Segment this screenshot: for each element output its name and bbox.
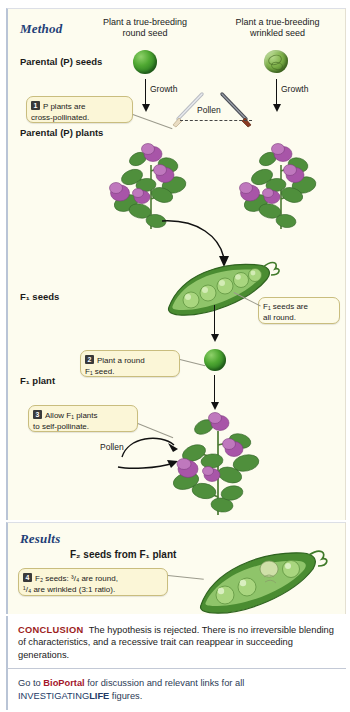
f1-all-round-text: F₁ seeds are all round. — [263, 302, 308, 322]
stage-label-f1-plant: F₁ plant — [20, 375, 55, 386]
growth-arrow-left — [145, 79, 146, 105]
bioportal-text: Go to BioPortal for discussion and relev… — [18, 677, 338, 703]
f1-seed-round-illustration — [204, 349, 226, 371]
method-panel: Method Plant a true-breeding round seed … — [6, 8, 346, 520]
investigating-word: INVESTIGATING — [18, 691, 89, 701]
conclusion-panel: CONCLUSION The hypothesis is rejected. T… — [6, 616, 346, 668]
step-4-text: F₂ seeds: ³/₄ are round, ¹/₄ are wrinkle… — [23, 574, 118, 594]
step-3-text: Allow F₁ plants to self-pollinate. — [33, 411, 98, 431]
f1-all-round-callout: F₁ seeds are all round. — [258, 297, 340, 324]
investigating-life-figure: Method Plant a true-breeding round seed … — [0, 0, 350, 712]
step-4-badge: 4 — [23, 573, 32, 582]
results-subheading: F₂ seeds from F₁ plant — [70, 549, 176, 560]
step-2-badge: 2 — [85, 355, 94, 364]
step-1-badge: 1 — [31, 101, 40, 110]
results-heading: Results — [20, 531, 60, 547]
p-seed-round-illustration — [133, 50, 157, 74]
bioportal-brand-link[interactable]: BioPortal — [43, 678, 84, 688]
life-word: LIFE — [89, 691, 109, 701]
step-2-leader-line — [180, 359, 205, 366]
column-head-wrinkled: Plant a true-breeding wrinkled seed — [220, 17, 335, 39]
f1-plant-illustration — [158, 397, 278, 515]
step-3-badge: 3 — [33, 410, 42, 419]
conclusion-label: CONCLUSION — [18, 625, 84, 635]
column-head-round: Plant a true-breeding round seed — [90, 17, 200, 39]
p-seed-wrinkled-illustration — [264, 50, 288, 73]
step-2-callout: 2Plant a round F₁ seed. — [80, 350, 180, 377]
pollination-brush-right-icon — [218, 91, 256, 129]
growth-label-right: Growth — [281, 84, 308, 94]
bioportal-line1-post: for discussion and relevant links for al… — [85, 678, 245, 688]
f2-pea-pod-illustration — [193, 545, 333, 615]
stage-label-f1-seeds: F₁ seeds — [20, 291, 59, 302]
bioportal-panel: Go to BioPortal for discussion and relev… — [6, 668, 346, 710]
p-plant-right-illustration — [226, 125, 336, 229]
results-panel: Results F₂ seeds from F₁ plant 4F₂ seeds… — [6, 522, 346, 614]
stage-label-p-seeds: Parental (P) seeds — [20, 56, 102, 67]
pollen-label-cross: Pollen — [197, 105, 221, 115]
bioportal-line1-pre: Go to — [18, 678, 43, 688]
bioportal-line2-post: figures. — [109, 691, 142, 701]
growth-arrow-right — [276, 79, 277, 105]
stage-label-f1-seeds-text: F₁ seeds — [20, 291, 59, 302]
step-1-callout: 1P plants are cross-pollinated. — [26, 96, 133, 123]
p-plant-left-illustration — [96, 125, 206, 229]
stage-label-p-plants: Parental (P) plants — [20, 127, 103, 138]
conclusion-text: CONCLUSION The hypothesis is rejected. T… — [18, 624, 338, 661]
method-heading: Method — [20, 21, 62, 37]
step-4-callout: 4F₂ seeds: ³/₄ are round, ¹/₄ are wrinkl… — [18, 568, 168, 596]
pollen-transfer-path — [180, 120, 252, 121]
arrow-pod-to-f1-seed — [214, 305, 215, 335]
